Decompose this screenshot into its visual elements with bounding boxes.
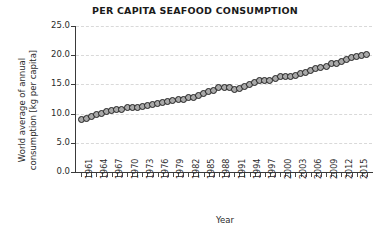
x-tick-mark [341,173,342,177]
x-tick-mark [188,173,189,177]
x-tick-label: 1967 [115,159,124,179]
x-tick-label: 2000 [284,159,293,179]
x-tick-mark [250,173,251,177]
x-tick-label: 1976 [161,159,170,179]
x-tick-mark [357,173,358,177]
x-tick-label: 1979 [176,159,185,179]
y-tick-label: 10.0 [4,108,70,118]
gridline [76,55,372,56]
gridline [76,114,372,115]
x-tick-label: 1985 [207,159,216,179]
x-tick-label: 1994 [253,159,262,179]
x-tick-mark [127,173,128,177]
x-tick-mark [280,173,281,177]
y-tick-mark [71,84,76,85]
x-tick-mark [142,173,143,177]
y-tick-label: 25.0 [4,20,70,30]
chart-figure: PER CAPITA SEAFOOD CONSUMPTION World ave… [0,0,390,238]
x-tick-mark [219,173,220,177]
y-axis-spine [75,26,76,173]
x-tick-mark [204,173,205,177]
x-tick-mark [112,173,113,177]
x-tick-label: 1988 [222,159,231,179]
x-tick-mark [158,173,159,177]
y-tick-label: 15.0 [4,78,70,88]
y-axis-tick-labels: 0.05.010.015.020.025.0 [0,0,70,238]
x-tick-label: 1973 [146,159,155,179]
x-tick-mark [234,173,235,177]
x-axis-label: Year [150,215,300,225]
x-tick-label: 2009 [330,159,339,179]
y-tick-mark [71,114,76,115]
x-tick-label: 1997 [268,159,277,179]
y-tick-label: 0.0 [4,166,70,176]
y-tick-mark [71,143,76,144]
x-tick-mark [173,173,174,177]
y-tick-mark [71,172,76,173]
x-tick-mark [265,173,266,177]
x-tick-mark [96,173,97,177]
plot-area [76,26,372,172]
x-tick-label: 1970 [131,159,140,179]
x-tick-label: 2003 [299,159,308,179]
y-tick-label: 20.0 [4,49,70,59]
gridline [76,143,372,144]
x-tick-label: 2012 [345,159,354,179]
x-tick-mark [311,173,312,177]
x-tick-mark [326,173,327,177]
y-tick-mark [71,55,76,56]
gridline [76,26,372,27]
x-tick-label: 1982 [192,159,201,179]
y-tick-label: 5.0 [4,137,70,147]
x-tick-mark [81,173,82,177]
data-point [363,51,370,58]
x-tick-label: 1964 [100,159,109,179]
x-tick-label: 2006 [314,159,323,179]
x-tick-mark [295,173,296,177]
x-tick-label: 2015 [360,159,369,179]
y-tick-mark [71,26,76,27]
x-tick-label: 1961 [85,159,94,179]
x-tick-label: 1991 [238,159,247,179]
